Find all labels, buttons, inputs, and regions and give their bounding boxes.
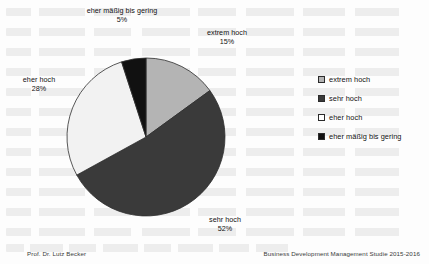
legend-item-eher-maessig-bis-gering: eher mäßig bis gering [318, 128, 428, 145]
pie-label-text: extrem hoch [207, 28, 247, 37]
legend-swatch-icon [318, 133, 325, 140]
pie-chart: eher mäßig bis gering 5% extrem hoch 15%… [0, 0, 429, 264]
pie-label-extrem-hoch: extrem hoch 15% [182, 28, 272, 47]
legend-item-eher-hoch: eher hoch [318, 109, 428, 126]
pie-slice-group [67, 58, 225, 216]
legend-item-label: sehr hoch [329, 94, 362, 103]
legend-item-label: eher mäßig bis gering [329, 132, 402, 141]
legend-swatch-icon [318, 76, 325, 83]
pie-label-text: eher hoch [23, 75, 55, 84]
pie-label-text: sehr hoch [209, 215, 241, 224]
footer-author: Prof. Dr. Lutz Becker [27, 250, 86, 257]
legend-item-label: extrem hoch [329, 75, 370, 84]
legend-item-sehr-hoch: sehr hoch [318, 90, 428, 107]
legend-swatch-icon [318, 114, 325, 121]
pie-label-text: eher mäßig bis gering [87, 6, 158, 15]
legend-swatch-icon [318, 95, 325, 102]
pie-label-sehr-hoch: sehr hoch 52% [180, 215, 270, 234]
pie-label-eher-hoch: eher hoch 28% [0, 75, 80, 94]
pie-label-percent: 28% [0, 84, 80, 93]
pie-label-percent: 15% [182, 37, 272, 46]
slide-canvas: eher mäßig bis gering 5% extrem hoch 15%… [0, 0, 429, 264]
pie-svg [66, 57, 226, 217]
legend-item-label: eher hoch [329, 113, 362, 122]
pie-label-percent: 5% [62, 15, 182, 24]
pie-label-eher-maessig-bis-gering: eher mäßig bis gering 5% [62, 6, 182, 25]
chart-legend: extrem hoch sehr hoch eher hoch eher mäß… [318, 71, 428, 147]
pie-label-percent: 52% [180, 224, 270, 233]
legend-item-extrem-hoch: extrem hoch [318, 71, 428, 88]
pie-graphic [66, 57, 226, 217]
footer-source: Business Development Management Studie 2… [264, 250, 421, 257]
